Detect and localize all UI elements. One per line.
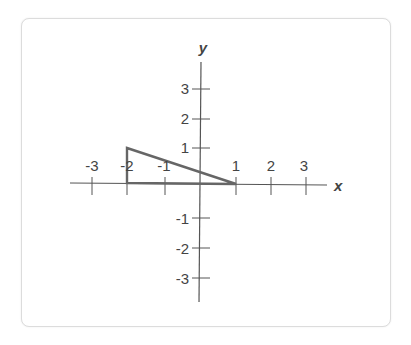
x-tick-label: 3 xyxy=(300,157,308,174)
x-tick-label: -1 xyxy=(157,157,170,174)
x-tick-label: 1 xyxy=(232,157,240,174)
coordinate-plane: -3 -2 -1 1 2 3 3 2 1 -1 -2 -3 x y xyxy=(0,0,411,345)
y-tick-label: 2 xyxy=(181,110,189,127)
x-tick-label: -2 xyxy=(120,157,133,174)
y-tick-label: 1 xyxy=(181,139,189,156)
y-tick-label: -1 xyxy=(176,210,189,227)
x-axis-label: x xyxy=(333,177,343,194)
y-axis-label: y xyxy=(198,39,208,56)
x-ticks xyxy=(92,177,306,195)
x-tick-label: -3 xyxy=(85,157,98,174)
y-tick-label: 3 xyxy=(181,80,189,97)
y-axis xyxy=(199,62,201,302)
x-tick-label: 2 xyxy=(267,157,275,174)
y-tick-label: -2 xyxy=(176,240,189,257)
y-tick-label: -3 xyxy=(176,270,189,287)
